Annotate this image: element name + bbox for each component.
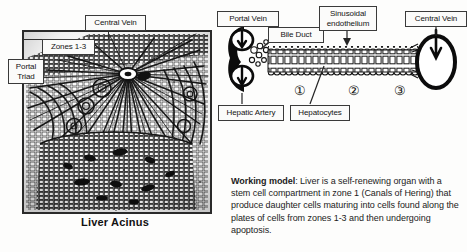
- label-sinusoidal-endothelium: Sinusoidal endothelium: [319, 6, 377, 31]
- label-portal-triad-line1: Portal: [11, 62, 41, 72]
- label-portal-triad-line2: Triad: [11, 72, 41, 82]
- label-hepatocytes: Hepatocytes: [290, 105, 350, 121]
- label-portal-triad: Portal Triad: [8, 59, 44, 84]
- zone-2-marker: ②: [348, 83, 360, 98]
- portal-triad-vessels: [228, 26, 268, 92]
- zone-1-marker: ①: [294, 83, 306, 98]
- acinus-drawing: [24, 32, 210, 212]
- label-sinusoidal-endothelium-line2: endothelium: [323, 19, 373, 29]
- hepatocyte-cord: [268, 46, 418, 76]
- liver-acinus-illustration: [22, 30, 212, 214]
- figure-canvas: Central Vein Zones 1-3 Portal Triad Live…: [0, 0, 467, 252]
- sinusoid-schematic: ① ② ③ Portal Vein: [214, 0, 467, 132]
- zone-3-marker: ③: [394, 83, 406, 98]
- working-model-paragraph: Working model: Liver is a self-renewing …: [231, 175, 463, 236]
- figure-caption: Liver Acinus: [22, 216, 208, 228]
- label-portal-vein: Portal Vein: [217, 11, 279, 27]
- working-model-heading: Working model: [231, 176, 295, 186]
- central-vein-vessel: [410, 30, 455, 88]
- label-central-vein-left: Central Vein: [85, 15, 146, 31]
- label-sinusoidal-endothelium-line1: Sinusoidal: [323, 9, 373, 19]
- label-zones-1-3: Zones 1-3: [42, 39, 95, 55]
- label-central-vein-right: Central Vein: [405, 11, 467, 27]
- label-bile-duct: Bile Duct: [268, 27, 324, 43]
- label-hepatic-artery: Hepatic Artery: [218, 105, 284, 121]
